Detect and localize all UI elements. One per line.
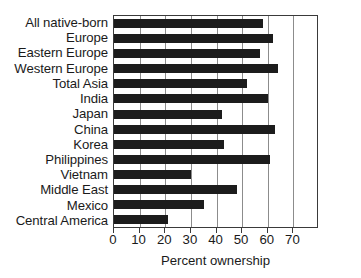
category-label: Europe [0, 30, 111, 45]
tick-label: 60 [259, 233, 274, 246]
x-axis-tick-labels: 010203040506070 [0, 233, 361, 251]
x-axis-title: Percent ownership [113, 253, 318, 268]
category-label: Central America [0, 213, 111, 228]
category-label: Philippines [0, 152, 111, 167]
bar-row [114, 122, 317, 137]
category-label: Vietnam [0, 167, 111, 182]
category-label: India [0, 91, 111, 106]
category-label: Middle East [0, 182, 111, 197]
category-label: All native-born [0, 15, 111, 30]
bar [114, 215, 168, 224]
tick-label: 30 [183, 233, 198, 246]
category-axis-labels: All native-born Europe Eastern Europe We… [0, 15, 111, 228]
bar-row [114, 137, 317, 152]
tick-label: 70 [285, 233, 300, 246]
category-label: Korea [0, 137, 111, 152]
bar-row [114, 46, 317, 61]
bar-row [114, 91, 317, 106]
bar-row [114, 106, 317, 121]
bar-chart-figure: All native-born Europe Eastern Europe We… [0, 0, 361, 278]
tick-label: 10 [131, 233, 146, 246]
plot-area [113, 15, 318, 228]
bar [114, 200, 204, 209]
category-label: China [0, 122, 111, 137]
category-label: Japan [0, 106, 111, 121]
tick-label: 20 [157, 233, 172, 246]
tick-label: 50 [234, 233, 249, 246]
category-label: Mexico [0, 198, 111, 213]
bar-series [114, 16, 317, 227]
bar-row [114, 31, 317, 46]
bar-row [114, 212, 317, 227]
bar-row [114, 16, 317, 31]
category-label: Eastern Europe [0, 45, 111, 60]
bar [114, 49, 260, 58]
bar-row [114, 76, 317, 91]
category-label: Western Europe [0, 61, 111, 76]
bar [114, 170, 191, 179]
bar [114, 110, 222, 119]
bar-row [114, 61, 317, 76]
tick-label: 0 [109, 233, 116, 246]
bar-row [114, 152, 317, 167]
bar [114, 94, 268, 103]
tick-label: 40 [208, 233, 223, 246]
bar-row [114, 167, 317, 182]
bar-row [114, 197, 317, 212]
bar [114, 19, 263, 28]
bar [114, 79, 247, 88]
category-label: Total Asia [0, 76, 111, 91]
bar [114, 140, 224, 149]
bar [114, 155, 270, 164]
bar [114, 125, 275, 134]
bar [114, 185, 237, 194]
bar-row [114, 182, 317, 197]
bar [114, 34, 273, 43]
bar [114, 64, 278, 73]
